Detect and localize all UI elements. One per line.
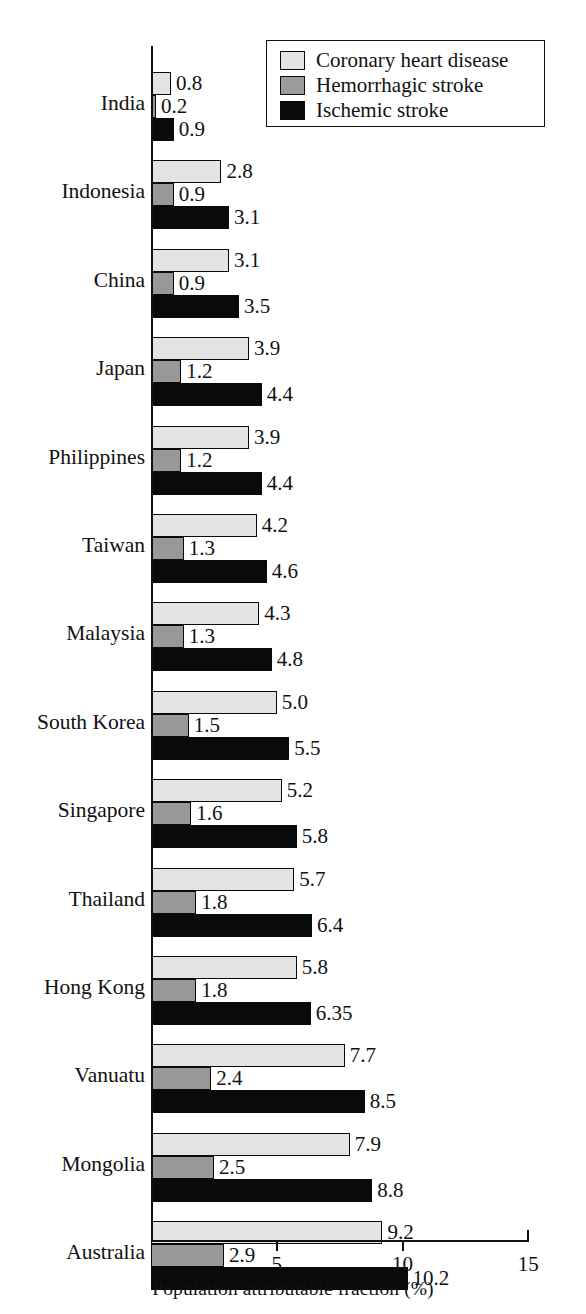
bar[interactable] [151, 825, 297, 848]
bar-value-label: 4.6 [268, 560, 298, 583]
bar-value-label: 0.2 [157, 95, 187, 118]
bar[interactable] [151, 160, 221, 183]
bar-value-label: 2.4 [212, 1067, 242, 1090]
bar[interactable] [151, 560, 267, 583]
bar-value-label: 4.8 [273, 648, 303, 671]
bar-group: India0.80.20.9 [0, 72, 586, 141]
bar[interactable] [151, 891, 196, 914]
category-label: Hong Kong [0, 975, 145, 999]
bar[interactable] [151, 648, 272, 671]
bar-group: Vanuatu7.72.48.5 [0, 1044, 586, 1113]
bar-value-label: 7.9 [351, 1133, 381, 1156]
bar-value-label: 0.9 [175, 183, 205, 206]
y-axis-line [151, 46, 153, 1241]
bar[interactable] [151, 868, 294, 891]
bar[interactable] [151, 714, 189, 737]
bar[interactable] [151, 360, 181, 383]
category-label: China [0, 268, 145, 292]
bar[interactable] [151, 514, 257, 537]
bar-value-label: 7.7 [346, 1044, 376, 1067]
bar[interactable] [151, 802, 191, 825]
bar-value-label: 5.5 [290, 737, 320, 760]
bar[interactable] [151, 249, 229, 272]
bar-group: Thailand5.71.86.4 [0, 868, 586, 937]
bar-value-label: 5.2 [283, 779, 313, 802]
category-label: Vanuatu [0, 1063, 145, 1087]
bar-value-label: 1.6 [192, 802, 222, 825]
category-label: Philippines [0, 445, 145, 469]
legend-label: Coronary heart disease [316, 49, 508, 72]
bar-value-label: 0.9 [175, 272, 205, 295]
bar-value-label: 1.3 [185, 537, 215, 560]
bar-value-label: 5.8 [298, 825, 328, 848]
bar[interactable] [151, 72, 171, 95]
bar-value-label: 1.5 [190, 714, 220, 737]
bar[interactable] [151, 1044, 345, 1067]
category-label: Japan [0, 356, 145, 380]
bar-value-label: 1.2 [182, 360, 212, 383]
bar[interactable] [151, 295, 239, 318]
bar-group: Singapore5.21.65.8 [0, 779, 586, 848]
bar-value-label: 3.5 [240, 295, 270, 318]
bar[interactable] [151, 118, 174, 141]
bar-value-label: 6.35 [312, 1002, 353, 1025]
bar[interactable] [151, 1156, 214, 1179]
bar[interactable] [151, 272, 174, 295]
bar[interactable] [151, 1090, 365, 1113]
bar[interactable] [151, 449, 181, 472]
bar[interactable] [151, 1002, 311, 1025]
bar[interactable] [151, 779, 282, 802]
bar[interactable] [151, 537, 184, 560]
category-label: Australia [0, 1240, 145, 1264]
bar[interactable] [151, 956, 297, 979]
bar-group: Hong Kong5.81.86.35 [0, 956, 586, 1025]
bar-value-label: 0.9 [175, 118, 205, 141]
bar-value-label: 1.8 [197, 979, 227, 1002]
x-axis-tick [276, 1240, 278, 1251]
bar[interactable] [151, 1244, 224, 1267]
bar-value-label: 4.4 [263, 383, 293, 406]
bar-value-label: 8.8 [373, 1179, 403, 1202]
bar-value-label: 1.3 [185, 625, 215, 648]
category-label: Indonesia [0, 179, 145, 203]
bar[interactable] [151, 383, 262, 406]
bar-chart: Coronary heart diseaseHemorrhagic stroke… [0, 0, 586, 1314]
bar-value-label: 8.5 [366, 1090, 396, 1113]
bar-group: China3.10.93.5 [0, 249, 586, 318]
category-label: Singapore [0, 798, 145, 822]
x-axis-tick-label: 15 [498, 1253, 558, 1275]
x-axis-tick-label: 10 [373, 1253, 433, 1275]
bar[interactable] [151, 1133, 350, 1156]
bar[interactable] [151, 1179, 372, 1202]
x-axis-tick [402, 1240, 404, 1251]
bar[interactable] [151, 472, 262, 495]
bar[interactable] [151, 914, 312, 937]
bar-value-label: 3.1 [230, 206, 260, 229]
bar[interactable] [151, 206, 229, 229]
bar-value-label: 4.3 [260, 602, 290, 625]
bar-value-label: 4.2 [258, 514, 288, 537]
bar-value-label: 2.5 [215, 1156, 245, 1179]
legend-swatch-icon [280, 51, 305, 70]
bar[interactable] [151, 337, 249, 360]
bar-value-label: 0.8 [172, 72, 202, 95]
bar[interactable] [151, 602, 259, 625]
bar-value-label: 1.8 [197, 891, 227, 914]
category-label: South Korea [0, 710, 145, 734]
bar[interactable] [151, 979, 196, 1002]
bar[interactable] [151, 183, 174, 206]
bar[interactable] [151, 426, 249, 449]
bar-group: Malaysia4.31.34.8 [0, 602, 586, 671]
bar[interactable] [151, 737, 289, 760]
legend-item[interactable]: Coronary heart disease [280, 48, 508, 73]
bar-group: Philippines3.91.24.4 [0, 426, 586, 495]
bar[interactable] [151, 1067, 211, 1090]
bar-group: Japan3.91.24.4 [0, 337, 586, 406]
category-label: Taiwan [0, 533, 145, 557]
bar[interactable] [151, 691, 277, 714]
x-axis-title: Population attributable fraction (%) [0, 1278, 586, 1300]
category-label: Mongolia [0, 1152, 145, 1176]
category-label: Thailand [0, 887, 145, 911]
bar-group: Taiwan4.21.34.6 [0, 514, 586, 583]
bar[interactable] [151, 625, 184, 648]
